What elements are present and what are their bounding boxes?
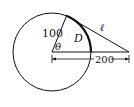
distance-label: 200: [95, 54, 114, 65]
region-label: D: [73, 32, 83, 45]
tangent-circle-diagram: 100 θ D ℓ 200: [0, 0, 134, 107]
tangent-line-label: ℓ: [100, 22, 104, 33]
radius-label: 100: [42, 27, 63, 40]
angle-label: θ: [55, 41, 61, 52]
